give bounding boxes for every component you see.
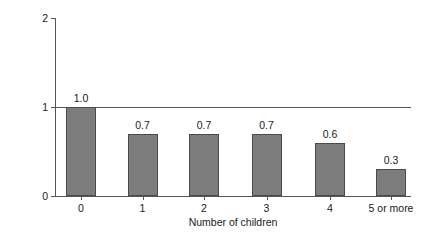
- x-axis-title: Number of children: [55, 216, 411, 228]
- bar: [128, 134, 158, 196]
- y-tick-label: 1: [42, 101, 48, 113]
- plot-area: 012 1.00.70.70.70.60.3 012345 or more: [55, 18, 411, 197]
- y-tick-label: 0: [42, 190, 48, 202]
- bar: [66, 107, 96, 196]
- bar-value-label: 0.7: [197, 119, 212, 131]
- x-tick-mark: [267, 197, 268, 200]
- bar: [315, 143, 345, 196]
- x-tick-mark: [81, 197, 82, 200]
- x-tick-label: 3: [264, 202, 270, 214]
- y-tick-label: 2: [42, 12, 48, 24]
- x-tick-label: 2: [201, 202, 207, 214]
- y-tick-mark: [51, 196, 55, 197]
- chart-figure: Relative risk of endometrial cancer 012 …: [0, 0, 430, 240]
- bar: [189, 134, 219, 196]
- x-tick-mark: [391, 197, 392, 200]
- x-tick-label: 5 or more: [369, 202, 414, 214]
- bar-value-label: 1.0: [74, 92, 89, 104]
- bar: [252, 134, 282, 196]
- x-tick-label: 0: [78, 202, 84, 214]
- x-tick-mark: [143, 197, 144, 200]
- y-tick-mark: [51, 18, 55, 19]
- bar-value-label: 0.7: [259, 119, 274, 131]
- x-tick-mark: [204, 197, 205, 200]
- x-axis-line: [55, 196, 411, 197]
- x-tick-mark: [330, 197, 331, 200]
- bar-value-label: 0.6: [323, 128, 338, 140]
- reference-line: [55, 107, 411, 108]
- bar: [376, 169, 406, 196]
- y-tick-mark: [51, 107, 55, 108]
- bar-value-label: 0.7: [135, 119, 150, 131]
- bar-value-label: 0.3: [384, 154, 399, 166]
- x-tick-label: 4: [327, 202, 333, 214]
- x-tick-label: 1: [140, 202, 146, 214]
